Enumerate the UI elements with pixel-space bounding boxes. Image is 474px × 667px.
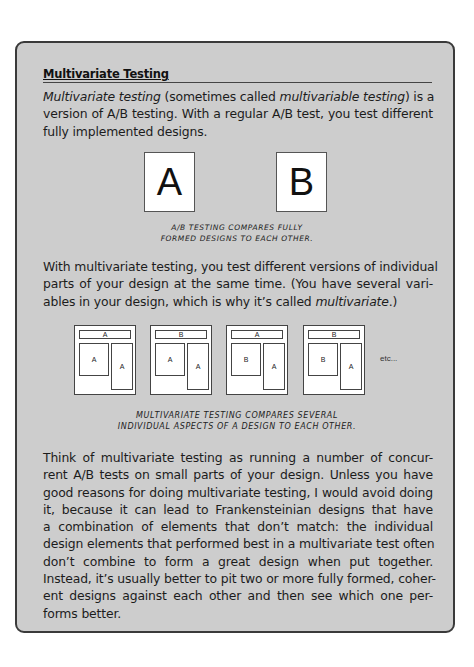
italic-term: multivariate (315, 294, 388, 309)
mockup-left-block: B (231, 343, 261, 376)
closing-line: rent A/B tests on small parts of your de… (43, 466, 433, 483)
section-heading-text: Multivariate Testing (43, 67, 432, 81)
mockup-left-block: B (308, 343, 338, 376)
intro-line-3: fully implemented designs. (43, 123, 433, 140)
closing-paragraph: Think of multivariate testing as running… (43, 449, 433, 622)
intro-line-2: version of A/B testing. With a regular A… (43, 105, 433, 122)
text-segment: .) (389, 294, 397, 309)
mockup-variant-1: A A A (74, 325, 136, 395)
text-segment: ables in your design, which is why it’s … (43, 294, 315, 309)
mockup-right-block: A (187, 343, 209, 390)
caption-line: Multivariate testing compares several (70, 410, 404, 421)
intro-paragraph: Multivariate testing (sometimes called m… (43, 88, 433, 140)
mockup-header: A (231, 330, 283, 339)
mockup-variant-4: B B A (303, 325, 365, 395)
mockup-left-block: A (79, 343, 109, 376)
mockup-right-block: A (263, 343, 285, 390)
mockup-header: A (79, 330, 131, 339)
mv-line-1: With multivariate testing, you test diff… (43, 258, 433, 275)
intro-line-1: Multivariate testing (sometimes called m… (43, 88, 433, 105)
mockup-variant-2: B A A (150, 325, 212, 395)
mockup-variant-3: A B A (226, 325, 288, 395)
mockup-right-block: A (340, 343, 362, 390)
mockup-right-block: A (111, 343, 133, 390)
closing-line: design elements that performed best in a… (43, 535, 433, 552)
closing-line: forms better. (43, 605, 433, 622)
mockup-header: B (308, 330, 360, 339)
closing-line: Instead, it’s usually better to pit two … (43, 570, 433, 587)
section-heading: Multivariate Testing (43, 67, 432, 83)
ab-figure-caption: A/B testing compares fully formed design… (120, 222, 354, 244)
mv-line-3: ables in your design, which is why it’s … (43, 293, 433, 310)
closing-line: a combination of elements that don’t mat… (43, 518, 433, 535)
mv-line-2: parts of your design at the same time. (… (43, 275, 433, 292)
text-segment: ) is a (405, 89, 434, 104)
caption-line: individual aspects of a design to each o… (70, 421, 404, 432)
etc-label: etc... (380, 354, 397, 363)
closing-line: don’t combine to form a great design whe… (43, 553, 433, 570)
mockup-left-block: A (155, 343, 185, 376)
closing-line: Think of multivariate testing as running… (43, 449, 433, 466)
design-a-box: A (144, 152, 195, 212)
closing-line: good reasons for doing multivariate test… (43, 484, 433, 501)
closing-line: ent designs against each other and then … (43, 587, 433, 604)
mockup-header: B (155, 330, 207, 339)
mv-figure-caption: Multivariate testing compares several in… (70, 410, 404, 432)
italic-term: multivariable testing (279, 89, 404, 104)
caption-line: A/B testing compares fully (120, 222, 354, 233)
italic-term: Multivariate testing (43, 89, 161, 104)
closing-line: it, because it can lead to Frankensteini… (43, 501, 433, 518)
multivariate-paragraph: With multivariate testing, you test diff… (43, 258, 433, 310)
text-segment: (sometimes called (161, 89, 280, 104)
caption-line: formed designs to each other. (120, 233, 354, 244)
design-b-box: B (276, 152, 327, 212)
